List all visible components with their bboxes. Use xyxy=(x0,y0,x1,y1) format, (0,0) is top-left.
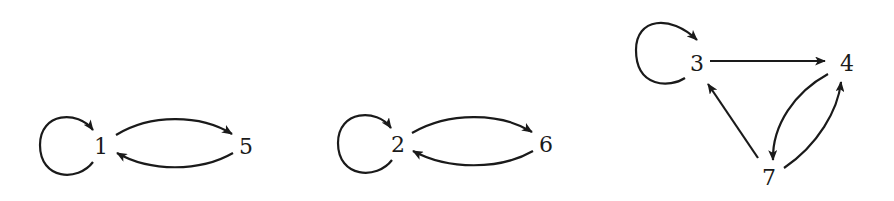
component-3-4-7: 3 4 7 xyxy=(636,23,854,190)
component-2-6: 2 6 xyxy=(338,115,553,173)
directed-graph-diagram: 1 5 2 6 3 4 7 xyxy=(0,0,894,201)
component-1-5: 1 5 xyxy=(40,117,253,175)
edge-4-to-7 xyxy=(773,74,828,160)
node-4: 4 xyxy=(840,51,854,76)
node-5: 5 xyxy=(239,134,253,159)
node-1: 1 xyxy=(94,134,108,159)
edge-self-loop-2 xyxy=(338,115,392,173)
node-7: 7 xyxy=(762,165,776,190)
edge-7-to-4 xyxy=(784,82,841,168)
node-3: 3 xyxy=(690,51,704,76)
edge-1-to-5 xyxy=(116,119,232,135)
edge-self-loop-1 xyxy=(40,117,93,175)
node-6: 6 xyxy=(539,132,553,157)
edge-6-to-2 xyxy=(413,151,533,165)
node-2: 2 xyxy=(391,132,405,157)
edge-self-loop-3 xyxy=(636,23,697,84)
edge-2-to-6 xyxy=(412,117,532,133)
edge-7-to-3 xyxy=(708,84,758,158)
edge-5-to-1 xyxy=(117,153,233,167)
